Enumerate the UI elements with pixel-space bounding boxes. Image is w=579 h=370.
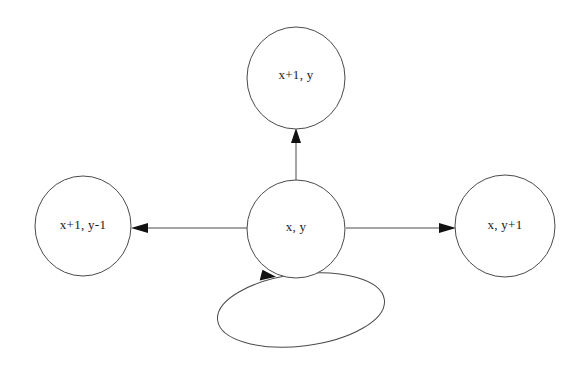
node-left-label: x+1, y-1 bbox=[60, 217, 107, 232]
diagram-canvas: x+1, y x, y x+1, y-1 x, y+1 bbox=[0, 0, 579, 370]
node-top[interactable]: x+1, y bbox=[247, 27, 345, 129]
node-right[interactable]: x, y+1 bbox=[455, 175, 555, 277]
edge-center-to-left bbox=[131, 223, 247, 233]
arrowhead-right bbox=[439, 223, 456, 233]
arrowhead-left bbox=[131, 223, 148, 233]
arrowhead-up bbox=[291, 128, 301, 143]
node-left[interactable]: x+1, y-1 bbox=[35, 176, 131, 276]
node-right-label: x, y+1 bbox=[487, 217, 522, 232]
node-center[interactable]: x, y bbox=[247, 180, 345, 278]
edge-center-to-right bbox=[346, 223, 456, 233]
state-transition-diagram: x+1, y x, y x+1, y-1 x, y+1 bbox=[0, 0, 579, 370]
node-top-label: x+1, y bbox=[278, 67, 313, 82]
node-center-label: x, y bbox=[286, 219, 307, 234]
edge-center-to-top bbox=[291, 128, 301, 181]
